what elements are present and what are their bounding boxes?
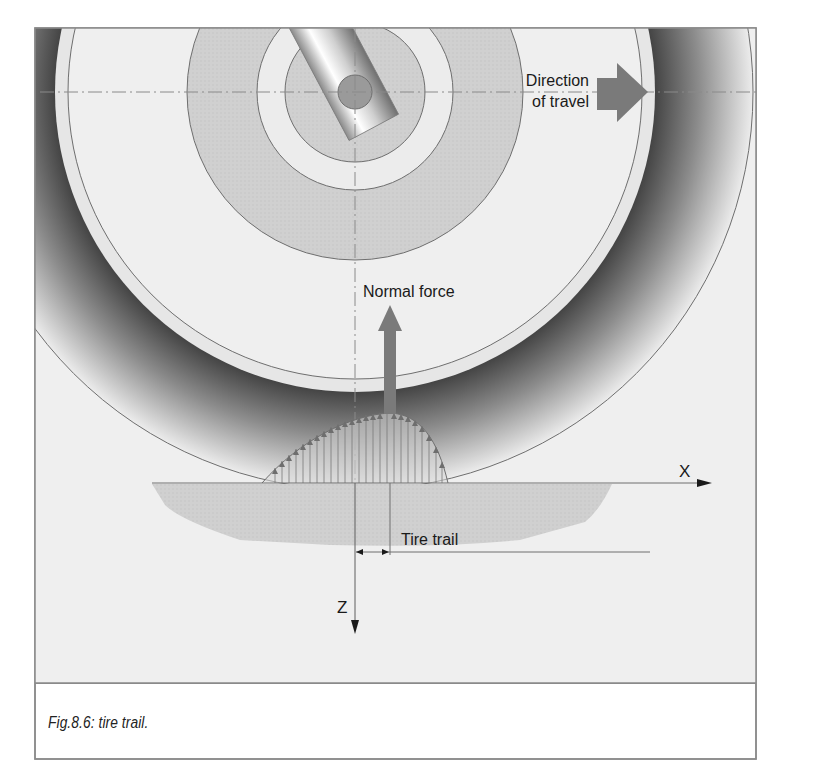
- diagram-canvas: X Z Normal force Tire trail Direction of…: [0, 0, 819, 775]
- tire-trail-label: Tire trail: [401, 531, 458, 548]
- direction-label-line2: of travel: [532, 93, 589, 110]
- figure-caption: Fig.8.6: tire trail.: [35, 683, 755, 759]
- direction-label-line1: Direction: [526, 72, 589, 89]
- caption-text: Fig.8.6: tire trail.: [48, 714, 148, 732]
- x-axis-label: X: [679, 462, 690, 481]
- normal-force-label: Normal force: [363, 283, 455, 300]
- tire-trail-figure: X Z Normal force Tire trail Direction of…: [0, 0, 819, 775]
- z-axis-label: Z: [337, 598, 347, 617]
